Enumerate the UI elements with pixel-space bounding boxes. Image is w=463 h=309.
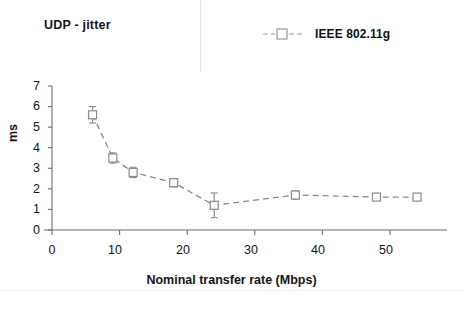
data-point-marker (170, 179, 178, 187)
data-series (89, 107, 421, 218)
data-point-marker (109, 154, 117, 162)
plot-area (0, 0, 463, 309)
data-point-marker (372, 193, 380, 201)
data-point-marker (129, 168, 137, 176)
series-line (93, 115, 417, 206)
data-point-marker (413, 193, 421, 201)
data-point-marker (291, 191, 299, 199)
scan-artifact-edge (0, 290, 463, 291)
data-point-marker (210, 201, 218, 209)
data-point-marker (89, 111, 97, 119)
figure-container: UDP - jitter IEEE 802.11g ms Nominal tra… (0, 0, 463, 309)
